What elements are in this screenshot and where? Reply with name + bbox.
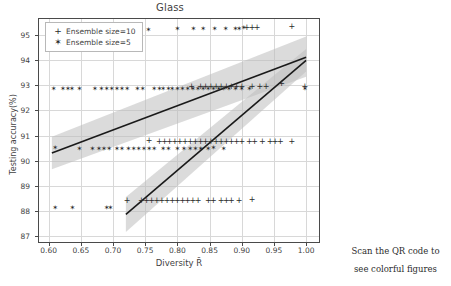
plus-marker-icon: +: [50, 26, 66, 37]
qr-panel: Scan the QR code to see colorful figures: [340, 0, 451, 286]
y-tick-mark: [35, 236, 38, 237]
y-tick-label: 88: [0, 206, 30, 215]
y-tick-mark: [35, 186, 38, 187]
qr-caption-line1: Scan the QR code to: [340, 246, 451, 256]
x-tick-label: 0.90: [233, 246, 250, 255]
x-tick-label: 0.70: [105, 246, 122, 255]
x-axis-label: Diversity R̄: [38, 258, 320, 268]
legend-item-ensemble-5: ✶ Ensemble size=5: [50, 37, 136, 48]
x-tick-label: 0.95: [266, 246, 283, 255]
star-marker-icon: ✶: [50, 37, 66, 48]
x-tick-label: 0.75: [137, 246, 154, 255]
legend-label: Ensemble size=10: [66, 26, 136, 37]
chart-title: Glass: [0, 2, 340, 13]
chart-figure: Glass ✶✶✶✶✶✶✶✶✶✶✶✶✶✶✶✶✶✶✶✶✶✶✶✶✶✶✶✶✶✶✶✶✶✶…: [0, 0, 340, 286]
y-tick-mark: [35, 85, 38, 86]
y-tick-mark: [35, 60, 38, 61]
plot-canvas: ✶✶✶✶✶✶✶✶✶✶✶✶✶✶✶✶✶✶✶✶✶✶✶✶✶✶✶✶✶✶✶✶✶✶✶✶✶✶✶✶…: [39, 19, 319, 242]
y-tick-mark: [35, 136, 38, 137]
y-tick-mark: [35, 161, 38, 162]
x-tick-label: 0.85: [201, 246, 218, 255]
legend-label: Ensemble size=5: [66, 37, 131, 48]
qr-caption-line2: see colorful figures: [340, 264, 451, 274]
chart-legend: + Ensemble size=10 ✶ Ensemble size=5: [45, 22, 143, 52]
x-tick-label: 1.00: [298, 246, 315, 255]
x-tick-label: 0.60: [40, 246, 57, 255]
y-tick-label: 94: [0, 56, 30, 65]
y-tick-mark: [35, 211, 38, 212]
plot-svg: [39, 19, 319, 242]
y-tick-mark: [35, 35, 38, 36]
x-tick-label: 0.65: [72, 246, 89, 255]
legend-item-ensemble-10: + Ensemble size=10: [50, 26, 136, 37]
y-tick-label: 87: [0, 231, 30, 240]
x-tick-label: 0.80: [169, 246, 186, 255]
y-tick-mark: [35, 110, 38, 111]
y-axis-label: Testing accuracy(%): [9, 75, 18, 195]
y-tick-label: 95: [0, 31, 30, 40]
